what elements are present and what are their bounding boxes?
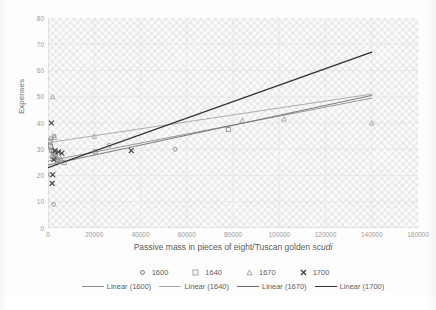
y-tick-label: 50 [18, 93, 44, 100]
trendline [48, 52, 372, 168]
x-tick-label: 140000 [361, 231, 383, 238]
trendline-swatch-icon [82, 282, 104, 290]
square-marker-icon [190, 267, 201, 277]
chart-legend: 1600164016701700 Linear (1600)Linear (16… [48, 265, 418, 293]
legend-item-linear-1600[interactable]: Linear (1600) [82, 282, 152, 291]
x-tick-label: 40000 [131, 231, 149, 238]
data-point [226, 127, 230, 131]
legend-item-1640[interactable]: 1640 [190, 267, 222, 277]
data-point [240, 118, 245, 122]
legend-marker-row: 1600164016701700 [48, 265, 418, 279]
y-tick-label: 70 [18, 41, 44, 48]
data-point [281, 117, 286, 121]
legend-label: 1670 [259, 268, 276, 277]
scatter-chart: Expenses 01020304050607080 0200004000060… [0, 0, 436, 310]
y-tick-label: 30 [18, 146, 44, 153]
x-axis-ticks: 0200004000060000800001000001200001400001… [48, 231, 418, 241]
legend-label: Linear (1600) [107, 282, 152, 291]
legend-label: 1600 [152, 268, 169, 277]
y-axis-ticks: 01020304050607080 [14, 18, 44, 228]
legend-label: 1700 [313, 268, 330, 277]
legend-trendline-row: Linear (1600)Linear (1640)Linear (1670)L… [48, 279, 418, 293]
data-point [50, 172, 55, 177]
legend-item-linear-1640[interactable]: Linear (1640) [159, 282, 229, 291]
cross-marker-icon [298, 267, 309, 277]
page-right-edge [426, 0, 436, 310]
plot-area [48, 18, 418, 228]
trendline [48, 98, 372, 161]
legend-item-1670[interactable]: 1670 [244, 267, 276, 277]
page-bottom-margin [0, 294, 436, 310]
plot-canvas [48, 18, 418, 228]
x-tick-label: 20000 [85, 231, 103, 238]
trendline-swatch-icon [315, 282, 337, 290]
y-tick-label: 40 [18, 120, 44, 127]
x-tick-label: 0 [46, 231, 50, 238]
y-tick-label: 80 [18, 15, 44, 22]
x-tick-label: 80000 [224, 231, 242, 238]
x-tick-label: 100000 [268, 231, 290, 238]
trendlines [48, 52, 372, 168]
data-point [50, 181, 55, 186]
legend-label: Linear (1670) [262, 282, 307, 291]
legend-label: 1640 [205, 268, 222, 277]
legend-item-1700[interactable]: 1700 [298, 267, 330, 277]
legend-item-1600[interactable]: 1600 [137, 267, 169, 277]
triangle-marker-icon [244, 267, 255, 277]
x-axis-title: Passive mass in pieces of eight/Tuscan g… [48, 242, 418, 252]
series-1700 [49, 121, 134, 186]
legend-label: Linear (1700) [340, 282, 385, 291]
data-point [129, 148, 134, 153]
x-axis-title-plain: Passive mass in pieces of eight/Tuscan g… [134, 242, 313, 252]
legend-label: Linear (1640) [184, 282, 229, 291]
page-left-edge [0, 0, 8, 310]
y-tick-label: 0 [18, 225, 44, 232]
trendline-swatch-icon [237, 282, 259, 290]
data-point [52, 202, 56, 206]
y-tick-label: 10 [18, 198, 44, 205]
legend-item-linear-1670[interactable]: Linear (1670) [237, 282, 307, 291]
trendline [48, 95, 372, 165]
legend-item-linear-1700[interactable]: Linear (1700) [315, 282, 385, 291]
y-tick-label: 20 [18, 172, 44, 179]
circle-marker-icon [137, 267, 148, 277]
y-tick-label: 60 [18, 67, 44, 74]
x-tick-label: 60000 [178, 231, 196, 238]
x-tick-label: 120000 [315, 231, 337, 238]
x-axis-title-italic: scudi [312, 242, 332, 252]
gridlines [48, 18, 418, 228]
trendline [48, 94, 372, 143]
trendline-swatch-icon [159, 282, 181, 290]
